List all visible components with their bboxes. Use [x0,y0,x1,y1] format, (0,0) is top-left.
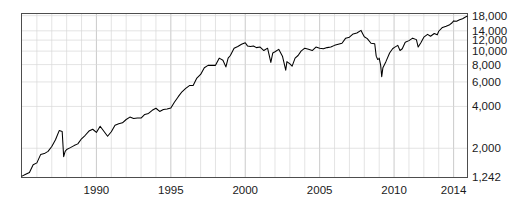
y-tick-label: 1,242 [472,171,501,183]
dow-jones-line-chart: 18,00014,00012,00010,0008,0006,0004,0002… [0,0,522,215]
x-tick-label: 2014 [441,184,467,196]
x-tick-label: 2010 [381,184,407,196]
x-tick-label: 1995 [158,184,184,196]
x-tick-label: 1990 [84,184,110,196]
y-tick-label: 8,000 [472,59,501,71]
x-tick-label: 2000 [232,184,258,196]
y-tick-label: 4,000 [472,100,501,112]
y-tick-label: 6,000 [472,76,501,88]
chart-container: 18,00014,00012,00010,0008,0006,0004,0002… [0,0,522,215]
y-tick-label: 2,000 [472,142,501,154]
chart-background [0,0,522,215]
x-tick-label: 2005 [307,184,333,196]
y-tick-label: 18,000 [472,10,507,22]
y-tick-label: 10,000 [472,45,507,57]
